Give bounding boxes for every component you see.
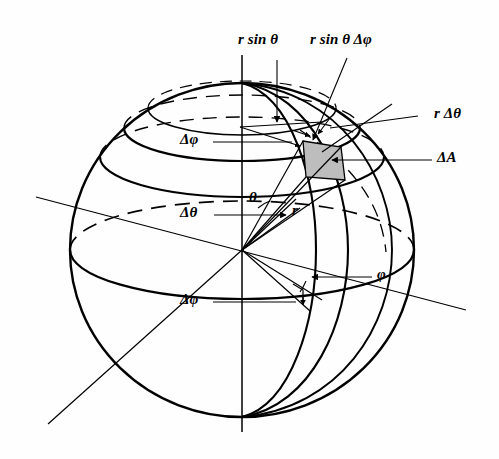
label-delta-phi-upper: Δφ	[180, 132, 198, 147]
label-r-sin-theta-delta-phi-text: r sin θ Δφ	[310, 31, 372, 47]
label-delta-theta: Δθ	[180, 205, 197, 220]
spherical-coordinates-figure: r sin θ r sin θ Δφ r Δθ ΔA Δφ Δθ θ r φ Δ…	[0, 0, 499, 459]
patch-indicator-arrows	[318, 118, 330, 134]
label-r-sin-theta: r sin θ	[238, 32, 278, 47]
y-axis	[36, 197, 466, 310]
label-delta-phi-lower: Δφ	[180, 292, 198, 307]
label-phi-text: φ	[377, 266, 386, 282]
label-delta-theta-text: Δθ	[180, 204, 197, 220]
label-delta-A-text: ΔA	[437, 149, 457, 165]
label-r-sin-theta-delta-phi: r sin θ Δφ	[310, 32, 372, 47]
label-r: r	[292, 203, 298, 218]
y-axis-line	[36, 197, 466, 310]
label-r-text: r	[292, 202, 298, 218]
label-delta-phi-lower-text: Δφ	[180, 291, 198, 307]
patch-arrow-top	[318, 118, 330, 134]
theta-ray-upper	[242, 199, 296, 250]
label-theta-text: θ	[249, 189, 257, 205]
label-theta: θ	[249, 190, 257, 205]
label-phi: φ	[377, 267, 386, 282]
label-r-delta-theta-text: r Δθ	[434, 105, 461, 121]
diagram-canvas	[0, 0, 499, 459]
label-r-delta-theta: r Δθ	[434, 106, 461, 121]
leader-r-delta-theta-line	[330, 116, 418, 128]
label-delta-A: ΔA	[437, 150, 457, 165]
label-delta-phi-upper-text: Δφ	[180, 131, 198, 147]
phi-ray-2	[242, 250, 322, 300]
x-axis-line	[48, 250, 242, 424]
x-axis	[48, 250, 242, 424]
label-r-sin-theta-text: r sin θ	[238, 31, 278, 47]
